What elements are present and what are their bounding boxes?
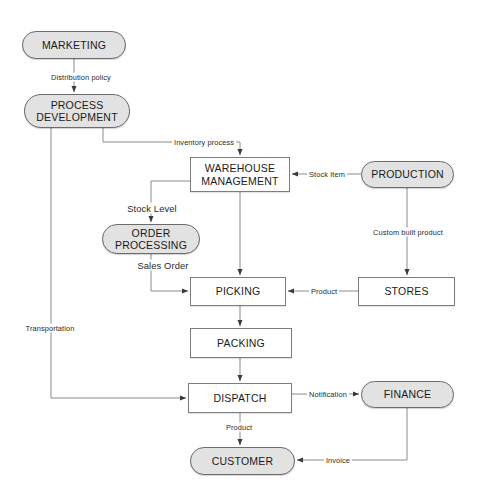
node-process-development[interactable]: PROCESS DEVELOPMENT [24,94,130,128]
node-production[interactable]: PRODUCTION [361,161,454,188]
node-finance[interactable]: FINANCE [361,381,454,408]
node-process-development-label: PROCESS DEVELOPMENT [32,99,122,124]
node-picking-label: PICKING [212,285,265,297]
node-order-processing[interactable]: ORDER PROCESSING [102,224,200,254]
node-production-label: PRODUCTION [367,168,448,180]
node-finance-label: FINANCE [380,388,436,400]
node-packing[interactable]: PACKING [190,328,292,358]
node-warehouse-management[interactable]: WAREHOUSE MANAGEMENT [190,157,290,192]
edge-label-stock-item: Stock Item [307,170,347,179]
node-dispatch[interactable]: DISPATCH [188,383,292,413]
edge-invoice [297,408,407,460]
edge-stock-level [151,181,190,222]
node-marketing[interactable]: MARKETING [22,31,126,59]
node-packing-label: PACKING [213,337,269,349]
flowchart-canvas: MARKETING PROCESS DEVELOPMENT WAREHOUSE … [0,0,477,501]
node-customer[interactable]: CUSTOMER [190,447,295,475]
edge-label-transportation: Transportation [24,324,77,333]
node-marketing-label: MARKETING [38,39,110,51]
node-stores-label: STORES [380,285,432,297]
edge-label-inventory-process: Inventory process [172,138,236,147]
edge-label-stock-level: Stock Level [125,203,179,214]
node-stores[interactable]: STORES [358,277,455,306]
edge-label-invoice: Invoice [324,456,352,465]
edge-label-sales-order: Sales Order [135,260,190,271]
edge-label-notification: Notification [307,390,349,399]
node-picking[interactable]: PICKING [190,277,286,306]
edge-label-custom-built-product: Custom built product [371,228,445,237]
edge-label-product-dispatch-customer: Product [224,423,254,432]
node-dispatch-label: DISPATCH [209,392,270,404]
edge-label-distribution-policy: Distribution policy [49,73,113,82]
edge-label-product-stores-picking: Product [309,287,339,296]
node-warehouse-management-label: WAREHOUSE MANAGEMENT [197,162,282,187]
node-customer-label: CUSTOMER [208,455,278,467]
node-order-processing-label: ORDER PROCESSING [111,227,191,252]
